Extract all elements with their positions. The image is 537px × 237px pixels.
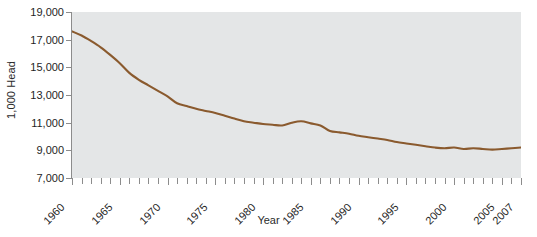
x-axis-tick-mark — [368, 178, 369, 184]
x-axis-tick-mark — [301, 178, 302, 184]
x-axis-tick-mark — [473, 178, 474, 184]
x-axis-tick-mark — [273, 178, 274, 184]
x-axis-tick-mark — [129, 178, 130, 184]
x-axis-tick-mark — [72, 178, 73, 185]
y-axis-tick-mark — [66, 40, 72, 41]
line-series-path — [72, 31, 521, 149]
x-axis-tick-mark — [349, 178, 350, 184]
x-axis-tick-mark — [492, 178, 493, 184]
x-axis-tick-mark — [511, 178, 512, 184]
x-axis-tick-mark — [254, 178, 255, 184]
x-axis-tick-mark — [330, 178, 331, 184]
plot-area — [72, 12, 521, 178]
y-axis-tick-label: 17,000 — [18, 34, 64, 46]
y-axis-tick-label: 11,000 — [18, 117, 64, 129]
x-axis-tick-mark — [91, 178, 92, 184]
x-axis-tick-mark — [416, 178, 417, 184]
x-axis-tick-mark — [234, 178, 235, 184]
x-axis-tick-mark — [320, 178, 321, 184]
y-axis-tick-label: 15,000 — [18, 61, 64, 73]
x-axis-tick-mark — [177, 178, 178, 184]
x-axis-tick-mark — [158, 178, 159, 184]
x-axis-tick-mark — [359, 178, 360, 185]
x-axis-tick-mark — [454, 178, 455, 185]
y-axis-title-text: 1,000 Head — [5, 61, 17, 119]
y-axis-tick-label: 19,000 — [18, 6, 64, 18]
y-axis-tick-mark — [66, 12, 72, 13]
x-axis-tick-mark — [339, 178, 340, 184]
x-axis-tick-mark — [215, 178, 216, 185]
x-axis-tick-mark — [425, 178, 426, 184]
chart-container: 1,000 Head 19,00017,00015,00013,00011,00… — [0, 0, 537, 237]
y-axis-tick-mark — [66, 67, 72, 68]
x-axis-tick-mark — [435, 178, 436, 184]
x-axis-tick-mark — [187, 178, 188, 184]
y-axis-tick-mark — [66, 95, 72, 96]
x-axis-title-text: Year — [257, 214, 279, 226]
x-axis-tick-mark — [263, 178, 264, 185]
x-axis-tick-mark — [206, 178, 207, 184]
x-axis-tick-mark — [148, 178, 149, 184]
x-axis-tick-mark — [244, 178, 245, 184]
y-axis-tick-mark — [66, 178, 72, 179]
y-axis-tick-label: 7,000 — [18, 172, 64, 184]
x-axis-tick-mark — [464, 178, 465, 184]
x-axis-tick-mark — [139, 178, 140, 184]
y-axis-tick-mark — [66, 123, 72, 124]
x-axis-tick-mark — [521, 178, 522, 185]
x-axis-tick-mark — [387, 178, 388, 184]
x-axis-tick-mark — [225, 178, 226, 184]
y-axis-tick-label: 13,000 — [18, 89, 64, 101]
y-axis-tick-mark — [66, 150, 72, 151]
x-axis-tick-mark — [168, 178, 169, 185]
x-axis-tick-mark — [292, 178, 293, 184]
x-axis-tick-mark — [311, 178, 312, 185]
x-axis-tick-mark — [378, 178, 379, 184]
x-axis-tick-mark — [282, 178, 283, 184]
x-axis-tick-mark — [406, 178, 407, 185]
x-axis-title: Year — [0, 214, 537, 226]
y-axis-tick-label: 9,000 — [18, 144, 64, 156]
x-axis-tick-mark — [82, 178, 83, 184]
x-axis-tick-mark — [196, 178, 197, 184]
x-axis-tick-mark — [397, 178, 398, 184]
x-axis-tick-mark — [120, 178, 121, 185]
x-axis-tick-mark — [110, 178, 111, 184]
line-series-svg — [72, 12, 521, 178]
x-axis-tick-mark — [101, 178, 102, 184]
x-axis-tick-mark — [502, 178, 503, 185]
x-axis-tick-mark — [445, 178, 446, 184]
x-axis-tick-mark — [483, 178, 484, 184]
